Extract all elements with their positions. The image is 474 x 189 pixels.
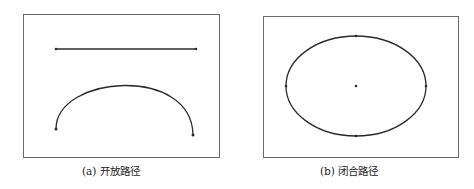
- anchor-point: [55, 48, 58, 51]
- anchor-point: [55, 128, 58, 131]
- anchor-point: [355, 135, 358, 138]
- open-path-drawing: [24, 15, 221, 159]
- anchor-point: [425, 85, 428, 88]
- caption-open-path: (a) 开放路径: [82, 163, 140, 178]
- open-arc-path: [56, 85, 193, 135]
- anchor-point: [285, 85, 288, 88]
- anchor-point: [195, 48, 198, 51]
- panel-open-path: [23, 14, 220, 158]
- panel-closed-path: [263, 16, 459, 158]
- center-point: [355, 85, 358, 88]
- anchor-point: [355, 35, 358, 38]
- closed-path-drawing: [264, 17, 460, 159]
- anchor-point: [192, 134, 195, 137]
- caption-closed-path: (b) 闭合路径: [320, 163, 378, 178]
